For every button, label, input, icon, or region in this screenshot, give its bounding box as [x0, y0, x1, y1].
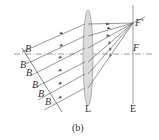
- label-lens: L: [85, 103, 91, 114]
- label-focal-point: F: [132, 42, 140, 53]
- label-wavefront-2: B: [26, 67, 32, 78]
- label-screen: E: [130, 103, 136, 114]
- label-wavefront-main: B: [25, 43, 31, 54]
- label-wavefront-4: B: [38, 88, 44, 99]
- wavefront-line: [22, 48, 62, 112]
- label-wavefront-5: B: [45, 96, 51, 107]
- caption: (b): [72, 122, 84, 134]
- optics-diagram: F′ F B B B B B B L E (b): [0, 0, 159, 140]
- label-focal-point-image: F′: [134, 17, 144, 28]
